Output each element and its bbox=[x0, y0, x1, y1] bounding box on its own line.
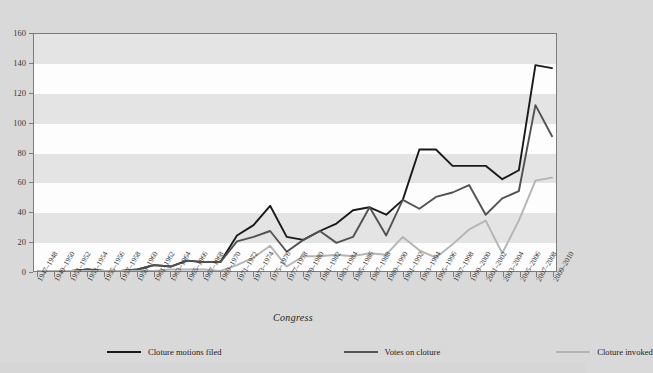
legend-swatch bbox=[107, 351, 141, 353]
page-bottom-strip bbox=[0, 362, 586, 373]
y-axis-tick-label: 140 bbox=[13, 59, 26, 68]
y-axis: 020406080100120140160 bbox=[0, 0, 30, 305]
legend-swatch bbox=[344, 351, 378, 353]
y-axis-tick-label: 160 bbox=[13, 29, 26, 38]
legend-item: Cloture motions filed bbox=[107, 347, 222, 357]
legend-item: Votes on cloture bbox=[344, 347, 441, 357]
x-axis: 1947–19481949–19501951–19521953–19541955… bbox=[33, 272, 557, 332]
legend-item: Cloture invoked bbox=[556, 347, 653, 357]
legend-label: Votes on cloture bbox=[385, 347, 441, 357]
y-axis-tick-label: 120 bbox=[13, 89, 26, 98]
y-axis-tick-label: 80 bbox=[18, 148, 27, 157]
legend-label: Cloture motions filed bbox=[148, 347, 222, 357]
y-axis-tick-label: 60 bbox=[18, 178, 27, 187]
x-axis-title: Congress bbox=[0, 312, 586, 323]
legend-swatch bbox=[556, 351, 590, 353]
series-lines bbox=[34, 34, 556, 271]
y-axis-tick-label: 0 bbox=[22, 268, 26, 277]
y-axis-tick-label: 100 bbox=[13, 118, 26, 127]
plot-area bbox=[33, 33, 557, 272]
legend-label: Cloture invoked bbox=[597, 347, 653, 357]
y-axis-tick-label: 40 bbox=[18, 208, 27, 217]
chart-legend: Cloture motions filedVotes on clotureClo… bbox=[33, 344, 557, 360]
series-line bbox=[38, 65, 552, 271]
series-line bbox=[38, 105, 552, 271]
y-axis-tick-label: 20 bbox=[18, 238, 27, 247]
